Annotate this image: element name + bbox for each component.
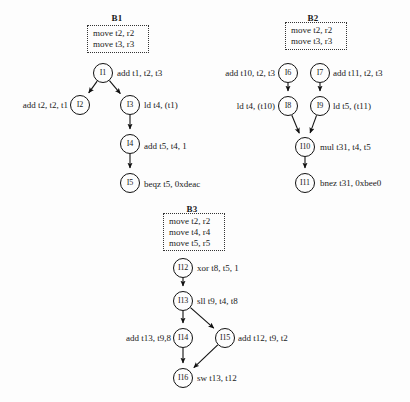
block-title-b1: B1 (112, 13, 123, 23)
node-label: I5 (127, 179, 133, 187)
node-label: I12 (178, 264, 188, 272)
instruction-node-i2[interactable]: I2 (70, 95, 90, 115)
node-label: I9 (317, 102, 323, 110)
instruction-text-i8: ld t4, (t10) (237, 101, 275, 111)
instruction-text-i1: add t1, t2, t3 (117, 68, 162, 78)
edge-layer (0, 0, 410, 402)
instruction-node-i11[interactable]: I11 (295, 173, 315, 193)
node-label: I13 (178, 297, 188, 305)
node-label: I6 (285, 69, 291, 77)
instruction-node-i16[interactable]: I16 (173, 368, 193, 388)
instruction-node-i6[interactable]: I6 (278, 63, 298, 83)
instruction-text-i9: ld t5, (t11) (333, 101, 371, 111)
instruction-text-i11: bnez t31, 0xbee0 (320, 178, 381, 188)
node-label: I15 (220, 334, 230, 342)
prologue-line: move t2, r2 (169, 216, 219, 227)
instruction-text-i14: add t13, t9,8 (126, 333, 171, 343)
instruction-node-i1[interactable]: I1 (93, 63, 113, 83)
prologue-line: move t4, r4 (169, 227, 219, 238)
node-label: I1 (100, 69, 106, 77)
node-label: I3 (127, 101, 133, 109)
instruction-node-i9[interactable]: I9 (310, 96, 330, 116)
instruction-text-i4: add t5, t4, 1 (144, 141, 187, 151)
instruction-text-i3: ld t4, (t1) (144, 100, 178, 110)
instruction-text-i5: beqz t5, 0xdeac (144, 179, 200, 189)
prologue-line: move t3, r3 (93, 39, 143, 50)
edge-i8-to-i10 (292, 115, 299, 133)
instruction-text-i16: sw t13, t12 (197, 373, 237, 383)
node-label: I14 (178, 334, 188, 342)
instruction-node-i8[interactable]: I8 (278, 96, 298, 116)
instruction-text-i2: add t2, t2, t1 (23, 100, 68, 110)
node-label: I4 (127, 140, 133, 148)
instruction-node-i4[interactable]: I4 (120, 134, 140, 154)
instruction-text-i6: add t10, t2, t3 (225, 68, 275, 78)
instruction-text-i13: sll t9, t4, t8 (197, 296, 238, 306)
instruction-text-i10: mul t31, t4, t5 (320, 142, 371, 152)
instruction-text-i7: add t11, t2, t3 (333, 68, 382, 78)
node-label: I8 (285, 102, 291, 110)
edge-i1-to-i3 (109, 81, 120, 94)
prologue-box-b3: move t2, r2move t4, r4move t5, r5 (163, 213, 225, 251)
figure-canvas: B1move t2, r2move t3, r3I1add t1, t2, t3… (0, 0, 410, 402)
node-label: I16 (178, 374, 188, 382)
instruction-node-i7[interactable]: I7 (310, 63, 330, 83)
prologue-line: move t2, r2 (291, 25, 341, 36)
instruction-node-i15[interactable]: I15 (215, 328, 235, 348)
edge-i13-to-i15 (191, 308, 214, 328)
prologue-line: move t3, r3 (291, 36, 341, 47)
node-label: I11 (300, 179, 310, 187)
instruction-node-i5[interactable]: I5 (120, 173, 140, 193)
node-label: I2 (77, 101, 83, 109)
edge-i9-to-i10 (310, 115, 316, 133)
instruction-text-i15: add t12, t9, t2 (238, 333, 288, 343)
prologue-line: move t2, r2 (93, 28, 143, 39)
instruction-node-i14[interactable]: I14 (173, 328, 193, 348)
instruction-node-i13[interactable]: I13 (173, 291, 193, 311)
node-label: I10 (300, 143, 310, 151)
prologue-box-b2: move t2, r2move t3, r3 (285, 22, 347, 50)
prologue-line: move t5, r5 (169, 238, 219, 249)
instruction-node-i3[interactable]: I3 (120, 95, 140, 115)
instruction-node-i10[interactable]: I10 (295, 137, 315, 157)
edge-i1-to-i2 (89, 81, 97, 93)
instruction-node-i12[interactable]: I12 (173, 258, 193, 278)
node-label: I7 (317, 69, 323, 77)
instruction-text-i12: xor t8, t5, 1 (197, 263, 239, 273)
edge-i15-to-i16 (194, 345, 218, 368)
prologue-box-b1: move t2, r2move t3, r3 (87, 25, 149, 53)
